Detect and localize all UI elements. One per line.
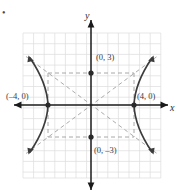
right-branch-lower <box>134 105 152 152</box>
point-right-vertex <box>131 102 136 107</box>
left-branch-lower <box>30 105 48 152</box>
label-left-vertex: (–4, 0) <box>6 91 29 101</box>
x-axis-arrow-right <box>161 102 169 109</box>
label-right-vertex: (4, 0) <box>137 91 156 101</box>
x-axis-arrow-left <box>14 102 22 109</box>
point-left-vertex <box>45 102 50 107</box>
label-top-covertex: (0, 3) <box>96 52 115 62</box>
point-top-covertex <box>88 70 93 75</box>
y-axis-arrow-down <box>88 183 95 191</box>
y-axis-arrow-up <box>88 20 95 28</box>
figure-container: (–4, 0) (4, 0) (0, 3) (0, –3) y x • <box>0 0 184 196</box>
hyperbola-graph: (–4, 0) (4, 0) (0, 3) (0, –3) y x • <box>0 0 184 196</box>
corner-bullet-marker: • <box>2 7 6 18</box>
label-bottom-covertex: (0, –3) <box>94 145 117 155</box>
x-axis-label: x <box>169 102 175 113</box>
y-axis-label: y <box>84 10 90 21</box>
axes <box>14 20 168 190</box>
point-bottom-covertex <box>88 134 93 139</box>
